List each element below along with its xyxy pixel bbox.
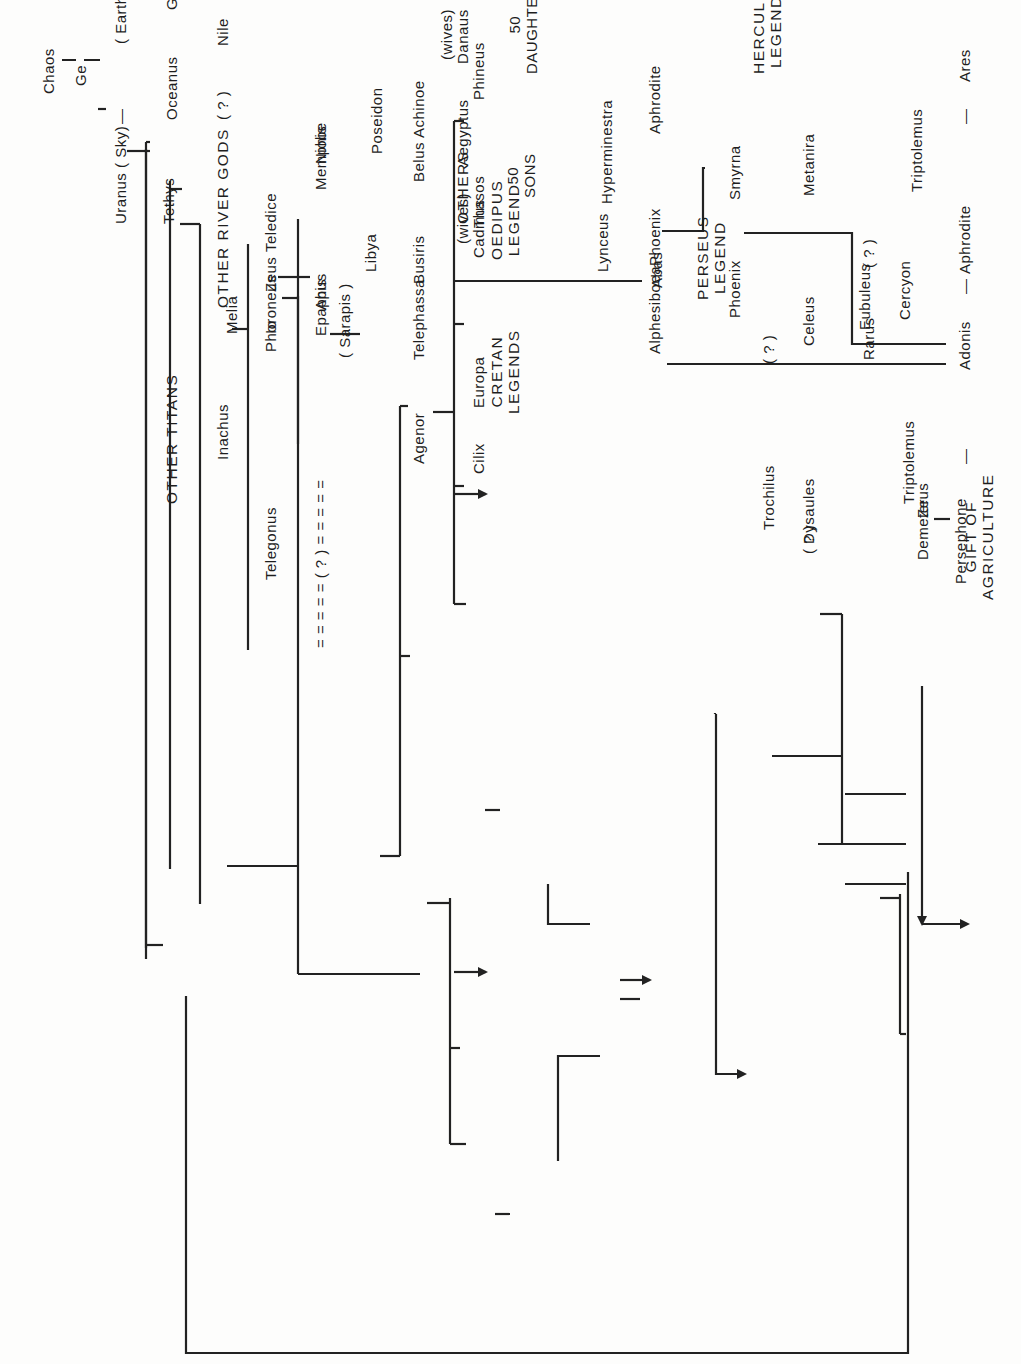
label-inachus: Inachus (214, 404, 231, 460)
label-earth-ge: ( Earth ) Ge (112, 0, 129, 44)
label-europa: Europa (470, 357, 487, 408)
label-belus: Belus (410, 142, 427, 182)
label-50-daughters: 50 DAUGHTERS (506, 0, 540, 74)
label-dash-uranus: — (112, 109, 129, 125)
label-50-sons: 50 SONS (504, 153, 538, 198)
label-dysaules: Dysaules (800, 478, 817, 544)
label-lynceus: Lynceus (594, 213, 611, 272)
label-other-river-gods: OTHER RIVER GODS (214, 128, 231, 308)
label-telephassa: Telephassa (410, 279, 427, 360)
label-phineus: Phineus (470, 42, 487, 100)
label-adonis: Adonis (956, 321, 973, 370)
label-nile: Nile (214, 18, 231, 46)
label-oceanus: Oceanus (163, 56, 180, 120)
label-celeus: Celeus (800, 296, 817, 346)
label-memphis: Memphis (312, 126, 329, 190)
label-tethys: Tethys (160, 178, 177, 224)
label-aphrodite-2: Aphrodite (956, 205, 973, 274)
label-poseidon: Poseidon (368, 87, 385, 154)
label-triptolemus-1: Triptolemus (908, 109, 925, 192)
label-dash-adonis-left: — (956, 449, 973, 465)
label-other-titans: OTHER TITANS (163, 374, 180, 504)
label-dash-ares: — (956, 109, 973, 125)
label-phoenix-1: Phoenix (646, 208, 663, 266)
label-perseus-legend: PERSEUS LEGEND (694, 215, 728, 300)
label-phoroneus: Phoroneus (262, 275, 279, 352)
label-metanira: Metanira (800, 134, 817, 196)
label-dash-adonis-right: — (956, 279, 973, 295)
label-ge-top: Ge (72, 65, 89, 86)
label-unknown-trochilus: ( ? ) (760, 335, 777, 364)
label-gift-of-agriculture: GIFT OF AGRICULTURE (962, 474, 996, 600)
label-hyperminestra: Hyperminestra (598, 100, 615, 204)
label-cercyon: Cercyon (896, 261, 913, 320)
label-thasos: Thasos (470, 176, 487, 228)
label-melia: Melia (223, 296, 240, 334)
label-danaus: Danaus (454, 9, 471, 64)
label-ge-left: Ge (163, 0, 180, 10)
label-chaos: Chaos (40, 48, 57, 94)
label-smyrna: Smyrna (726, 145, 743, 200)
label-cretan-legends: CRETAN LEGENDS (488, 329, 522, 414)
label-hercules-legends: HERCULES LEGENDS (750, 0, 784, 74)
label-ares: Ares (956, 49, 973, 82)
label-busiris: Busiris (410, 235, 427, 284)
label-apis: Apis (312, 279, 329, 310)
label-aphrodite-1: Aphrodite (646, 65, 663, 134)
label-teledice: Teledice (262, 193, 279, 252)
label-alphesiboea: Alphesiboea (646, 266, 663, 354)
label-cilix: Cilix (470, 443, 487, 474)
label-zeus-demeter: Zeus (914, 483, 931, 518)
label-wives-aeg: (wives) (454, 193, 471, 244)
genealogy-diagram: Chaos Ge Uranus ( Sky) — ( Earth ) Ge Te… (0, 0, 1021, 1364)
label-telegonus: Telegonus (262, 507, 279, 580)
label-phoenix-2: Phoenix (726, 260, 743, 318)
label-dashed-link: = = = = = ( ? ) = = = = = (312, 480, 329, 648)
label-uranus: Uranus ( Sky) (112, 126, 129, 224)
label-wives-dan: (wives) (438, 9, 455, 60)
label-eubuleus: Eubuleus (856, 263, 873, 330)
label-sarapis: ( Sarapis ) (336, 283, 353, 358)
label-agenor: Agenor (410, 413, 427, 464)
label-unknown-nile: ( ? ) (214, 91, 231, 120)
label-libya: Libya (362, 234, 379, 272)
label-trochilus: Trochilus (760, 465, 777, 530)
label-achinoe: Achinoe (410, 80, 427, 138)
